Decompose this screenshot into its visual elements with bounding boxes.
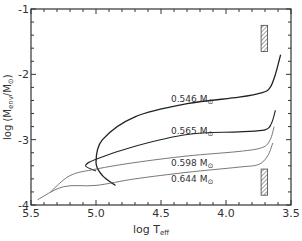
curve-label-0565: 0.565 M⊙ xyxy=(171,127,213,138)
x-axis-label: log Teff xyxy=(133,224,169,237)
x-tick-label: 4.0 xyxy=(217,208,235,219)
curve-label-0598: 0.598 M⊙ xyxy=(171,159,213,170)
y-tick-label: -1 xyxy=(18,4,29,15)
y-tick-label: -2 xyxy=(18,69,29,80)
hatched-box-1 xyxy=(261,169,268,195)
curve-2 xyxy=(51,127,275,192)
x-tick-label: 3.5 xyxy=(282,208,300,219)
hatched-regions xyxy=(261,25,268,195)
curves xyxy=(38,55,281,200)
curve-label-0546: 0.546 M⊙ xyxy=(171,95,213,106)
y-axis-label: log (Menv/M⊙) xyxy=(3,74,15,140)
y-tick-label: -4 xyxy=(18,200,29,211)
x-tick-label: 4.5 xyxy=(152,208,170,219)
y-tick-label: -3 xyxy=(18,134,29,145)
hatched-box-0 xyxy=(261,25,268,51)
curve-label-0644: 0.644 M⊙ xyxy=(171,175,213,186)
x-tick-label: 5.0 xyxy=(87,208,105,219)
chart-canvas xyxy=(0,0,302,241)
